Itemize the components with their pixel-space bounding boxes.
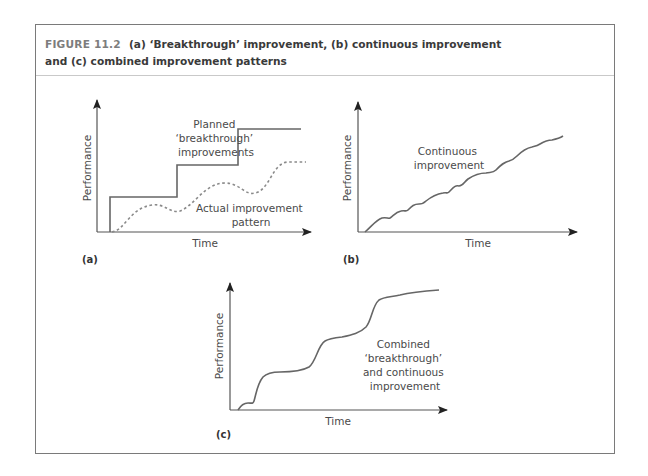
panel-a-planned-steps — [110, 129, 301, 232]
panel-a: Performance Time Planned ‘breakthrough’ … — [81, 100, 311, 265]
panel-c-x-label: Time — [324, 415, 351, 427]
panel-a-tag: (a) — [82, 254, 98, 265]
panel-c-curve-label: Combined ‘breakthrough’ and continuous i… — [363, 338, 447, 392]
panel-c-combined-curve — [238, 290, 439, 410]
panel-a-y-label: Performance — [81, 135, 93, 202]
panel-c-y-label: Performance — [213, 313, 225, 380]
panel-a-actual-label: Actual improvement pattern — [196, 202, 306, 228]
panel-b-curve-label: Continuous improvement — [414, 145, 484, 171]
panel-b-tag: (b) — [343, 254, 359, 265]
panel-b-y-label: Performance — [341, 135, 353, 202]
figure-diagrams: Performance Time Planned ‘breakthrough’ … — [0, 0, 648, 476]
panel-b-x-label: Time — [464, 237, 491, 249]
panel-c-tag: (c) — [216, 429, 231, 440]
panel-b: Performance Time Continuous improvement … — [341, 102, 577, 265]
panel-a-planned-label: Planned ‘breakthrough’ improvements — [175, 118, 256, 158]
panel-a-x-label: Time — [191, 237, 218, 249]
panel-c: Performance Time Combined ‘breakthrough’… — [213, 283, 447, 440]
